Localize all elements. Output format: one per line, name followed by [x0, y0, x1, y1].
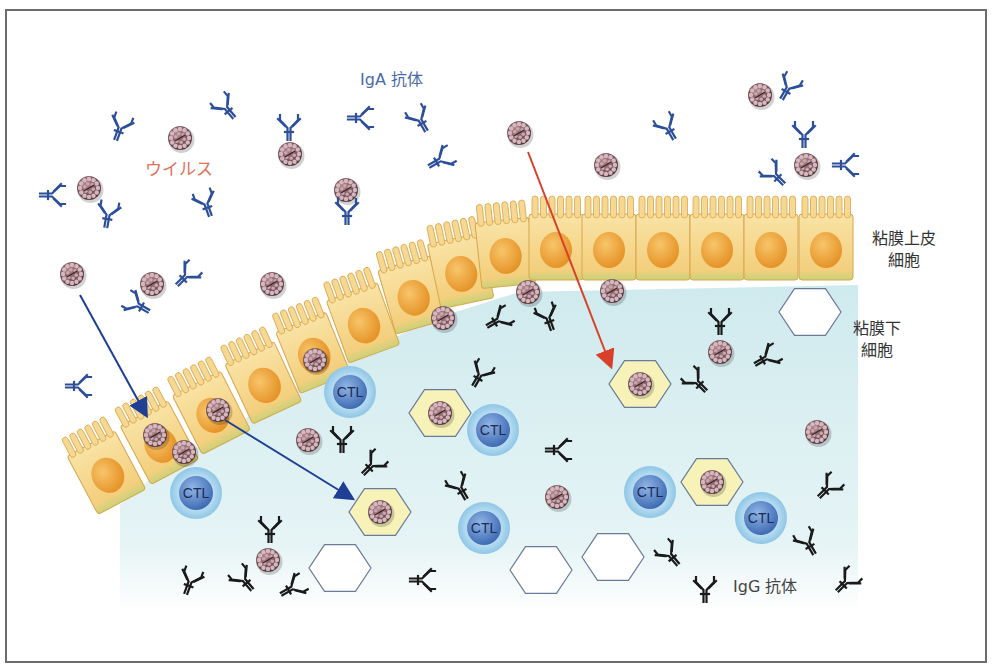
iga-antibody-icon: [209, 91, 242, 124]
epithelial-cell: [799, 196, 853, 280]
ctl-cell: CTL: [170, 467, 222, 519]
virus-icon: [748, 83, 775, 110]
epithelial-cell: [529, 196, 583, 280]
epithelial-cell: [690, 196, 744, 280]
ctl-cell: CTL: [324, 366, 376, 418]
virus-icon: [140, 272, 167, 299]
igg-antibody-label: IgG 抗体: [733, 573, 797, 597]
iga-antibody-icon: [40, 184, 65, 206]
epithelial-cell: [582, 196, 636, 280]
virus-icon: [77, 176, 104, 203]
virus-label: ウイルス: [145, 155, 213, 180]
iga-antibody-icon: [833, 154, 858, 176]
virus-icon: [60, 262, 87, 289]
iga-antibody-icon: [772, 71, 804, 104]
virus-icon: [260, 272, 287, 299]
ctl-label: CTL: [337, 384, 364, 400]
iga-antibody-icon: [106, 112, 135, 143]
ctl-label: CTL: [637, 484, 664, 500]
iga-antibody-icon: [278, 115, 300, 140]
mucosal-epithelial-cell-label: 粘膜上皮 細胞: [872, 228, 936, 272]
epithelial-cell: [744, 196, 798, 280]
submucosal-label-line2: 細胞: [853, 340, 901, 362]
iga-antibody-icon: [95, 200, 121, 228]
iga-antibody-icon: [191, 188, 220, 219]
virus-icon: [278, 142, 305, 169]
iga-antibody-icon: [170, 259, 203, 292]
iga-antibody-icon: [652, 111, 684, 144]
ctl-cell: CTL: [458, 502, 510, 554]
iga-antibody-icon: [758, 158, 791, 191]
ctl-label: CTL: [471, 520, 498, 536]
mucosal-epithelial-label-line2: 細胞: [872, 250, 936, 272]
submucosal-label-line1: 粘膜下: [853, 318, 901, 340]
iga-antibody-icon: [424, 144, 457, 176]
ctl-cell: CTL: [624, 466, 676, 518]
ctl-label: CTL: [748, 510, 775, 526]
mucosal-epithelial-label-line1: 粘膜上皮: [872, 228, 936, 250]
mucosal-immunity-diagram: CTLCTLCTLCTLCTLCTL: [0, 0, 994, 669]
epithelial-cell: [636, 196, 690, 280]
virus-icon: [794, 153, 821, 180]
ctl-cell: CTL: [467, 404, 519, 456]
virus-icon: [168, 126, 195, 153]
iga-antibody-label: IgA 抗体: [360, 66, 423, 90]
iga-antibody-icon: [348, 107, 373, 129]
iga-antibody-icon: [404, 103, 436, 136]
epithelial-cell: [473, 199, 535, 288]
submucosal-cell-label: 粘膜下 細胞: [853, 318, 901, 362]
ctl-cell: CTL: [735, 492, 787, 544]
ctl-label: CTL: [183, 485, 210, 501]
ctl-label: CTL: [480, 422, 507, 438]
iga-antibody-icon: [793, 122, 815, 147]
virus-icon: [594, 153, 621, 180]
iga-antibody-icon: [66, 375, 91, 397]
virus-icon: [507, 121, 534, 148]
